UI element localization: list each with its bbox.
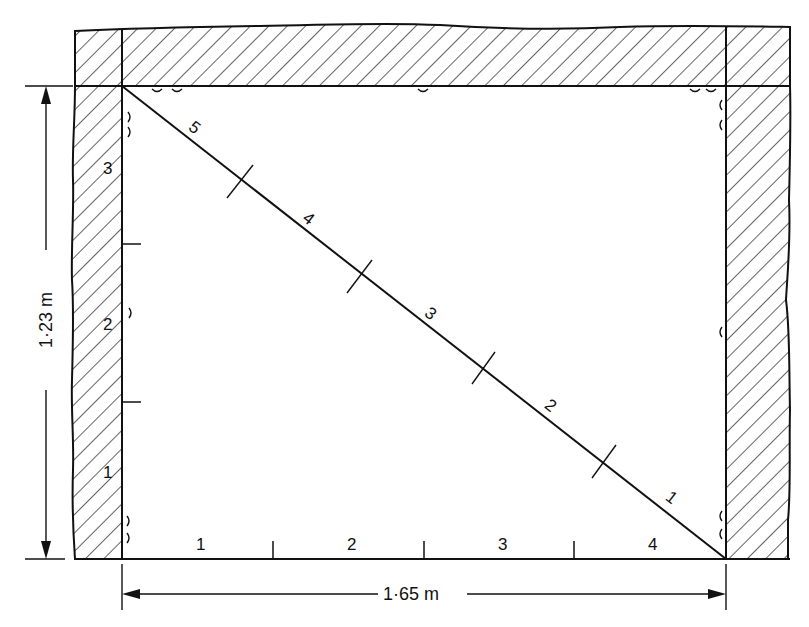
right-wall <box>726 86 790 559</box>
width-arrow-left <box>122 589 140 599</box>
bottom-scale-label-1: 1 <box>196 536 205 553</box>
width-dimension-label: 1·65 m <box>383 585 439 603</box>
left-scale-label-2: 2 <box>103 316 112 333</box>
floor-plan-diagram <box>0 0 809 627</box>
width-arrow-right <box>708 589 726 599</box>
left-scale-label-1: 1 <box>103 464 112 481</box>
left-scale-label-3: 3 <box>103 160 112 177</box>
height-dimension-label: 1·23 m <box>37 290 55 350</box>
top-wall <box>75 24 790 86</box>
bottom-scale-label-3: 3 <box>498 536 507 553</box>
height-arrow-down <box>41 541 51 559</box>
bottom-scale-label-2: 2 <box>347 536 356 553</box>
left-wall <box>72 86 122 559</box>
bottom-scale-label-4: 4 <box>648 536 657 553</box>
height-arrow-up <box>41 86 51 104</box>
